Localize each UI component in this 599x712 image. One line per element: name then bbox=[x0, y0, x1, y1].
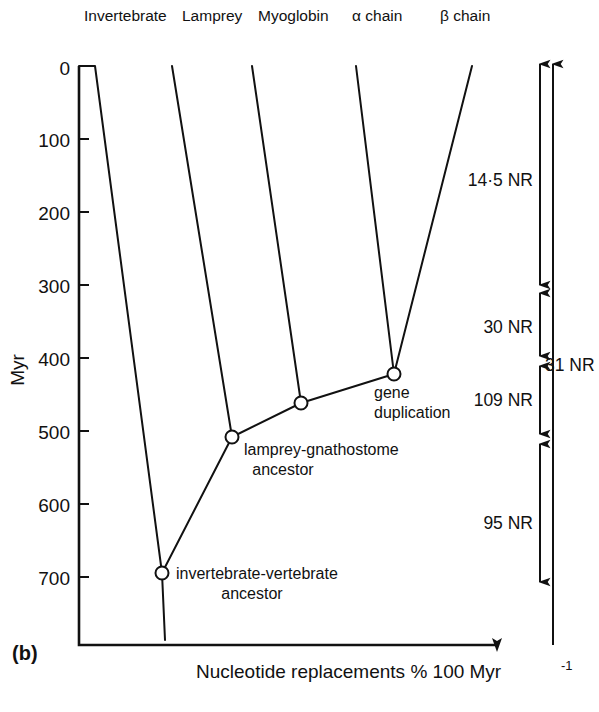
branch-lamprey bbox=[172, 66, 232, 437]
tree-branches bbox=[79, 66, 472, 640]
y-axis-tick-labels: 0 100 200 300 400 500 600 700 bbox=[38, 58, 70, 589]
figure-canvas: Invertebrate Lamprey Myoglobin α chain β… bbox=[0, 0, 599, 712]
node-label-invertebrate-vertebrate-line1: invertebrate-vertebrate bbox=[176, 565, 338, 582]
y-tick-label-200: 200 bbox=[38, 203, 70, 224]
x-axis-title: Nucleotide replacements % 100 Myr bbox=[196, 661, 502, 682]
top-label-myoglobin: Myoglobin bbox=[258, 7, 329, 24]
y-axis-ticks bbox=[79, 139, 89, 577]
branch-myoglobin-link bbox=[232, 403, 301, 437]
node-myoglobin-divergence bbox=[295, 397, 308, 410]
y-axis-title: Myr bbox=[7, 354, 28, 386]
y-tick-label-500: 500 bbox=[38, 422, 70, 443]
y-tick-label-400: 400 bbox=[38, 349, 70, 370]
x-axis-title-group: Nucleotide replacements % 100 Myr -1 bbox=[196, 658, 573, 682]
nr-label-30: 30 NR bbox=[483, 317, 533, 337]
node-label-gene-duplication-line2: duplication bbox=[374, 404, 451, 421]
branch-myoglobin bbox=[252, 66, 301, 403]
y-tick-label-0: 0 bbox=[59, 58, 70, 79]
node-label-lamprey-gnathostome-line2: ancestor bbox=[252, 461, 314, 478]
nr-label-31: 31 NR bbox=[545, 355, 595, 375]
top-label-beta-chain: β chain bbox=[440, 7, 490, 24]
top-labels-row: Invertebrate Lamprey Myoglobin α chain β… bbox=[84, 7, 490, 24]
branch-root-stem bbox=[162, 573, 165, 640]
y-tick-label-700: 700 bbox=[38, 568, 70, 589]
branch-invertebrate bbox=[79, 66, 162, 573]
x-axis-title-superscript: -1 bbox=[561, 658, 573, 673]
plot-frame bbox=[79, 66, 497, 645]
nr-label-109: 109 NR bbox=[474, 390, 533, 410]
branch-ancestor-link bbox=[162, 437, 232, 573]
nr-labels: 14·5 NR 30 NR 31 NR 109 NR 95 NR bbox=[468, 170, 595, 533]
node-invertebrate-vertebrate-ancestor bbox=[156, 567, 169, 580]
nr-label-14-5: 14·5 NR bbox=[468, 170, 533, 190]
node-lamprey-gnathostome-ancestor bbox=[226, 431, 239, 444]
top-label-alpha-chain: α chain bbox=[352, 7, 402, 24]
top-label-lamprey: Lamprey bbox=[182, 7, 243, 24]
top-label-invertebrate: Invertebrate bbox=[84, 7, 167, 24]
y-tick-label-300: 300 bbox=[38, 276, 70, 297]
y-tick-label-600: 600 bbox=[38, 495, 70, 516]
nr-label-95: 95 NR bbox=[483, 513, 533, 533]
node-gene-duplication bbox=[388, 368, 401, 381]
branch-alpha-chain bbox=[356, 66, 394, 374]
node-label-gene-duplication-line1: gene bbox=[374, 384, 410, 401]
node-label-invertebrate-vertebrate-line2: ancestor bbox=[221, 585, 283, 602]
node-labels: gene duplication lamprey-gnathostome anc… bbox=[176, 384, 451, 602]
phylogenetic-tree-figure: Invertebrate Lamprey Myoglobin α chain β… bbox=[0, 0, 599, 712]
y-tick-label-100: 100 bbox=[38, 130, 70, 151]
panel-label: (b) bbox=[12, 642, 38, 664]
branch-beta-chain bbox=[394, 66, 472, 374]
node-label-lamprey-gnathostome-line1: lamprey-gnathostome bbox=[244, 441, 399, 458]
